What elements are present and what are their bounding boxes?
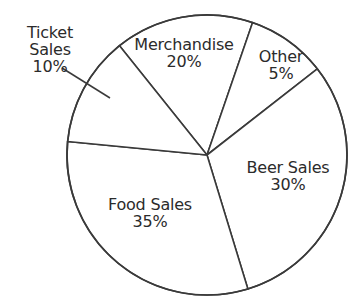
pie-label-other-name: Other	[245, 48, 317, 65]
pie-label-food-sales: Food Sales 35%	[85, 196, 215, 230]
pie-label-beer-sales-value: 30%	[230, 176, 346, 193]
pie-label-merchandise-value: 20%	[116, 53, 252, 70]
pie-label-other-value: 5%	[245, 65, 317, 82]
pie-label-food-sales-value: 35%	[85, 213, 215, 230]
pie-label-ticket-sales-value: 10%	[2, 58, 98, 75]
pie-label-ticket-sales-name-line1: Ticket	[2, 24, 98, 41]
pie-label-ticket-sales-name-line2: Sales	[2, 41, 98, 58]
pie-chart: Ticket Sales 10% Merchandise 20% Other 5…	[0, 0, 363, 308]
pie-label-other: Other 5%	[245, 48, 317, 82]
pie-label-food-sales-name: Food Sales	[85, 196, 215, 213]
pie-label-merchandise: Merchandise 20%	[116, 36, 252, 70]
pie-label-beer-sales-name: Beer Sales	[230, 159, 346, 176]
pie-label-ticket-sales: Ticket Sales 10%	[2, 24, 98, 75]
pie-label-merchandise-name: Merchandise	[116, 36, 252, 53]
pie-label-beer-sales: Beer Sales 30%	[230, 159, 346, 193]
